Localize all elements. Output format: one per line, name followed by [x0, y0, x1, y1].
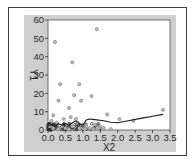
data-point	[78, 127, 81, 130]
data-point	[53, 40, 56, 43]
data-point	[52, 114, 55, 117]
scatter-chart: 01020304050600.00.51.01.52.02.53.03.5X2Y…	[0, 0, 195, 165]
data-point	[67, 127, 70, 130]
data-point	[57, 127, 60, 130]
data-point	[102, 127, 105, 130]
data-point	[118, 117, 121, 120]
x-axis-title: X2	[103, 142, 116, 153]
x-tick-label: 3.5	[163, 132, 176, 143]
data-point	[88, 127, 91, 130]
data-point	[92, 127, 95, 130]
data-point	[80, 99, 83, 102]
data-point	[74, 117, 77, 120]
y-tick-label: 20	[33, 88, 44, 99]
y-tick-label: 10	[33, 106, 44, 117]
data-point	[64, 127, 67, 130]
data-point	[106, 113, 109, 116]
x-tick-label: 2.5	[129, 132, 142, 143]
data-point	[109, 127, 112, 130]
data-point	[67, 106, 70, 109]
data-point	[50, 119, 53, 122]
y-tick-label: 40	[33, 51, 44, 62]
y-axis-title: Y1	[28, 69, 39, 82]
data-point	[93, 123, 96, 126]
x-tick-label: 3.0	[146, 132, 159, 143]
data-point	[57, 99, 60, 102]
x-tick-label: 1.0	[76, 132, 89, 143]
data-point	[95, 28, 98, 31]
plot-area	[48, 20, 170, 130]
data-point	[97, 127, 100, 130]
data-point	[62, 117, 65, 120]
data-point	[71, 125, 74, 128]
data-point	[69, 116, 72, 119]
data-point	[161, 108, 164, 111]
data-point	[90, 94, 93, 97]
y-tick-label: 50	[33, 33, 44, 44]
data-point	[73, 94, 76, 97]
data-point	[71, 61, 74, 64]
y-tick-label: 60	[33, 14, 44, 25]
x-tick-label: 0.0	[41, 132, 54, 143]
data-point	[59, 83, 62, 86]
data-point	[83, 127, 86, 130]
x-tick-label: 0.5	[59, 132, 72, 143]
data-point	[78, 83, 81, 86]
data-point	[52, 127, 55, 130]
